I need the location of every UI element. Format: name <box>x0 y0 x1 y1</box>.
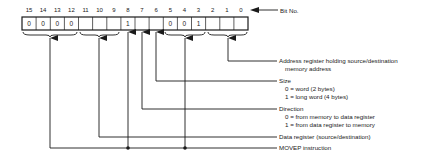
bit-number: 3 <box>192 7 206 13</box>
bit-number: 10 <box>93 7 107 13</box>
data-register-label: Data register (source/destination) <box>279 133 370 140</box>
bit-number: 14 <box>36 7 50 13</box>
bit-number: 11 <box>79 7 93 13</box>
bit-value: 0 <box>50 20 64 27</box>
address-register-label: Address register holding source/destinat… <box>279 57 398 64</box>
size-label: Size <box>279 77 291 84</box>
bit-number: 12 <box>64 7 78 13</box>
direction-option-0: 0 = from memory to data register <box>285 113 375 120</box>
bit-number: 15 <box>22 7 36 13</box>
field-braces <box>23 32 247 37</box>
bit-number: 5 <box>163 7 177 13</box>
bit-number: 2 <box>206 7 220 13</box>
bit-value: 0 <box>163 20 177 27</box>
address-register-label-cont: memory address <box>285 65 331 72</box>
bit-number: 0 <box>234 7 248 13</box>
bit-value: 0 <box>36 20 50 27</box>
bit-number: 9 <box>107 7 121 13</box>
bit-number: 13 <box>50 7 64 13</box>
bit-value: 1 <box>192 20 206 27</box>
size-option-0: 0 = word (2 bytes) <box>285 85 335 92</box>
bit-value: 1 <box>121 20 135 27</box>
direction-label: Direction <box>279 105 303 112</box>
movep-instruction-label: MOVEP instruction <box>279 144 331 151</box>
size-option-1: 1 = long word (4 bytes) <box>285 93 348 100</box>
bit-value: 0 <box>177 20 191 27</box>
bit-number: 1 <box>220 7 234 13</box>
bit-value: 0 <box>22 20 36 27</box>
bit-no-pointer <box>250 7 278 13</box>
bit-value: 0 <box>64 20 78 27</box>
leader-lines <box>50 32 277 148</box>
bit-no-label: Bit No. <box>280 7 299 14</box>
bit-number: 6 <box>149 7 163 13</box>
direction-option-1: 1 = from data register to memory <box>285 121 375 128</box>
bit-number: 4 <box>177 7 191 13</box>
bit-number: 7 <box>135 7 149 13</box>
bit-number: 8 <box>121 7 135 13</box>
